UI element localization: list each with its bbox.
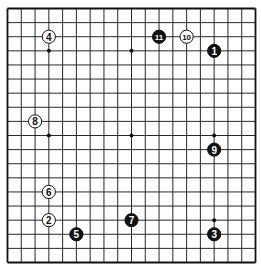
star-point bbox=[47, 49, 51, 53]
move-number-label: 5 bbox=[74, 229, 80, 240]
move-number-label: 4 bbox=[46, 32, 52, 43]
white-stone-6: 6 bbox=[42, 185, 55, 198]
move-number-label: 2 bbox=[46, 215, 52, 226]
star-point bbox=[212, 134, 216, 138]
move-number-label: 1 bbox=[211, 46, 217, 57]
black-stone-7: 7 bbox=[125, 214, 138, 227]
move-number-label: 10 bbox=[182, 33, 191, 42]
star-point bbox=[47, 134, 51, 138]
white-stone-4: 4 bbox=[42, 30, 55, 43]
star-point bbox=[130, 49, 134, 53]
move-number-label: 8 bbox=[32, 116, 38, 127]
white-stone-8: 8 bbox=[28, 115, 41, 128]
star-point bbox=[212, 218, 216, 222]
move-number-label: 6 bbox=[46, 187, 52, 198]
move-number-label: 11 bbox=[155, 33, 164, 42]
move-number-label: 9 bbox=[211, 145, 217, 156]
black-stone-11: 11 bbox=[152, 30, 165, 43]
move-number-label: 7 bbox=[129, 215, 135, 226]
go-board: 1234567891011 bbox=[0, 0, 261, 268]
white-stone-10: 10 bbox=[180, 30, 193, 43]
star-point bbox=[130, 134, 134, 138]
move-number-label: 3 bbox=[211, 229, 217, 240]
black-stone-1: 1 bbox=[208, 44, 221, 57]
black-stone-3: 3 bbox=[208, 228, 221, 241]
white-stone-2: 2 bbox=[42, 214, 55, 227]
black-stone-9: 9 bbox=[208, 143, 221, 156]
black-stone-5: 5 bbox=[70, 228, 83, 241]
